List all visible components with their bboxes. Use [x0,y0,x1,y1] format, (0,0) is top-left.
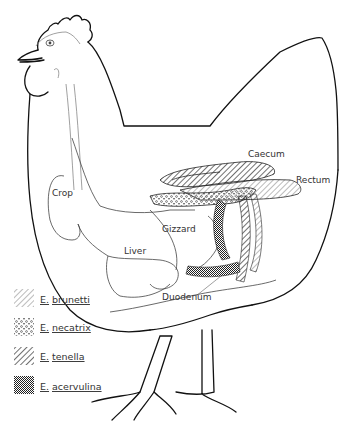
label-duodenum: Duodenum [162,292,212,302]
label-rectum: Rectum [296,175,330,185]
legend-item-brunetti: E. brunetti [14,289,90,307]
right-leg [176,330,236,412]
neck-back [88,38,338,170]
beak [18,50,44,62]
label-crop: Crop [52,188,73,198]
swatch-necatrix [14,318,34,336]
legend: E. brunetti E. necatrix E. tenella E. ac… [14,289,102,394]
diagram-canvas: Crop Liver Gizzard Duodenum Caecum Rectu… [0,0,354,443]
left-leg [92,336,176,414]
duodenum-acervulina [186,262,240,277]
legend-genus: E. [40,351,49,362]
duodenal-loop-3 [250,194,262,272]
legend-item-tenella: E. tenella [14,347,85,365]
legend-genus: E. [40,322,49,333]
swatch-brunetti [14,289,34,307]
legend-species: brunetti [52,294,90,305]
legend-item-acervulina: E. acervulina [14,376,102,394]
label-liver: Liver [124,246,146,256]
legend-item-necatrix: E. necatrix [14,318,91,336]
swatch-tenella [14,347,34,365]
legend-species: acervulina [52,381,102,392]
legend-genus: E. [40,381,49,392]
chicken-diagram: Crop Liver Gizzard Duodenum Caecum Rectu… [0,0,354,443]
pupil [49,42,52,45]
legend-species: tenella [52,351,85,362]
duodenal-loop-1 [214,200,230,260]
comb [38,16,93,51]
legend-species: necatrix [52,322,91,333]
legs [92,330,236,420]
belly [150,305,252,330]
label-gizzard: Gizzard [162,224,196,234]
wattle [25,66,48,96]
label-caecum: Caecum [248,149,285,159]
swatch-acervulina [14,376,34,394]
legend-genus: E. [40,294,49,305]
